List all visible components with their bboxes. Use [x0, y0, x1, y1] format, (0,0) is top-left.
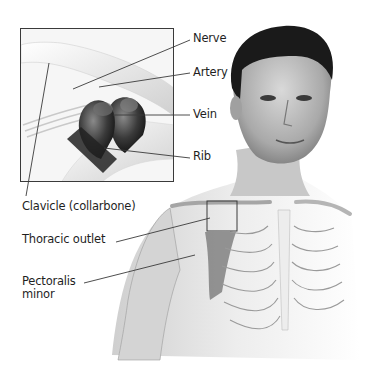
label-artery: Artery: [193, 66, 228, 79]
label-pectoralis-minor: Pectoralis minor: [22, 275, 92, 301]
figure-illustration: [0, 0, 375, 375]
label-vein: Vein: [193, 108, 217, 121]
torso: [112, 140, 360, 360]
label-rib: Rib: [193, 150, 211, 163]
anatomy-figure: Nerve Artery Vein Rib Clavicle (collarbo…: [0, 0, 375, 375]
head: [230, 26, 333, 164]
label-nerve: Nerve: [193, 32, 226, 45]
label-thoracic-outlet: Thoracic outlet: [22, 233, 105, 246]
label-clavicle: Clavicle (collarbone): [22, 200, 136, 213]
